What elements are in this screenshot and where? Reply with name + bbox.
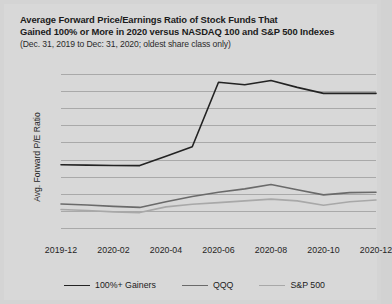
data-lines <box>61 65 376 237</box>
legend-label: S&P 500 <box>290 280 325 290</box>
legend-swatch <box>182 285 208 286</box>
legend-swatch <box>64 285 90 286</box>
legend-label: 100%+ Gainers <box>95 280 156 290</box>
legend-item[interactable]: QQQ <box>182 280 234 290</box>
plot-area: 100.090.080.070.060.050.040.030.020.010.… <box>61 65 376 237</box>
x-axis-tick-label: 2020-06 <box>202 245 234 255</box>
x-axis-tick-label: 2020-02 <box>97 245 129 255</box>
x-axis-tick-label: 2020-12 <box>360 245 392 255</box>
x-axis-tick-label: 2020-08 <box>255 245 287 255</box>
chart-legend: 100%+ GainersQQQS&P 500 <box>4 280 385 290</box>
chart-title-line-2: Gained 100% or More in 2020 versus NASDA… <box>20 26 334 37</box>
chart-subtitle: (Dec. 31, 2019 to Dec: 31, 2020; oldest … <box>20 39 231 49</box>
x-axis-tick-label: 2019-12 <box>45 245 77 255</box>
x-axis-tick-label: 2020-04 <box>150 245 182 255</box>
chart-canvas: Average Forward Price/Earnings Ratio of … <box>4 4 377 300</box>
x-axis-tick-label: 2020-10 <box>307 245 339 255</box>
legend-item[interactable]: S&P 500 <box>259 280 325 290</box>
chart-title-line-1: Average Forward Price/Earnings Ratio of … <box>20 14 278 25</box>
y-axis-label: Avg. Forward P/E Ratio <box>32 72 42 242</box>
series-line <box>61 80 376 165</box>
legend-label: QQQ <box>213 280 234 290</box>
legend-item[interactable]: 100%+ Gainers <box>64 280 156 290</box>
legend-swatch <box>259 285 285 286</box>
